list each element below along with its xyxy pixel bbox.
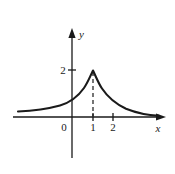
y-axis-label: y bbox=[78, 28, 84, 40]
x-axis-label: x bbox=[155, 122, 161, 134]
x-tick-label-1: 1 bbox=[90, 121, 96, 133]
x-axis-arrow-icon bbox=[156, 113, 166, 120]
origin-tick-label: 0 bbox=[61, 121, 67, 133]
math-figure: 0 1 2 2 y x bbox=[0, 0, 175, 174]
y-axis-arrow-icon bbox=[68, 28, 75, 38]
y-tick-label-2: 2 bbox=[60, 64, 66, 76]
x-tick-label-2: 2 bbox=[110, 121, 116, 133]
coordinate-plot: 0 1 2 2 y x bbox=[0, 0, 175, 174]
curve-path bbox=[18, 71, 159, 116]
